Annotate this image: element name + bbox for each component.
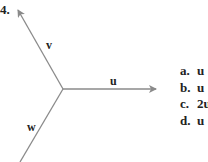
- option-c[interactable]: c.2u: [180, 96, 208, 112]
- option-b[interactable]: b.u: [180, 80, 204, 96]
- option-letter: a.: [180, 63, 197, 79]
- option-text: u: [197, 113, 204, 128]
- vector-w-label: w: [27, 120, 36, 135]
- vector-v-label: v: [46, 38, 52, 53]
- vector-diagram: [0, 0, 208, 162]
- option-letter: b.: [180, 80, 197, 96]
- option-text: 2u: [197, 96, 208, 111]
- option-letter: c.: [180, 96, 197, 112]
- option-letter: d.: [180, 113, 197, 129]
- option-a[interactable]: a.u: [180, 63, 204, 79]
- question-number: 4.: [0, 2, 10, 18]
- vector-v-arrow: [18, 10, 63, 89]
- option-d[interactable]: d.u: [180, 113, 204, 129]
- option-text: u: [197, 80, 204, 95]
- vector-u-label: u: [110, 74, 117, 89]
- option-text: u: [197, 63, 204, 78]
